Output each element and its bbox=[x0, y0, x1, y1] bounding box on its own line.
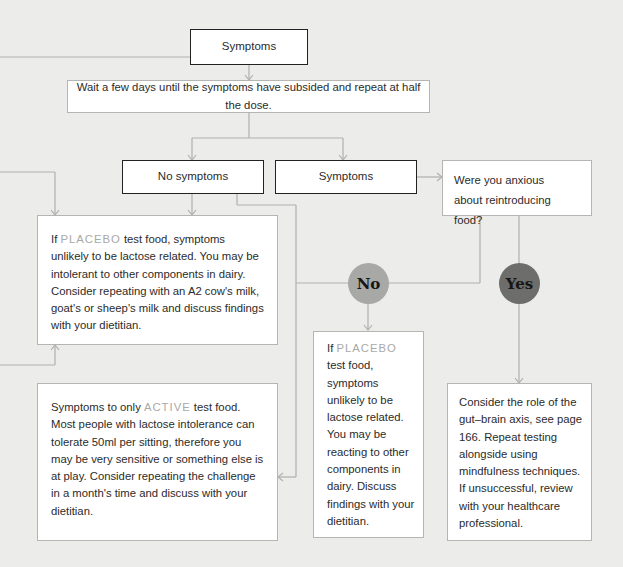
yes-label: Yes bbox=[506, 275, 533, 293]
wait-step-box: Wait a few days until the symptoms have … bbox=[67, 80, 430, 113]
placebo-left-prefix: If bbox=[51, 233, 60, 245]
no-circle: No bbox=[348, 263, 389, 304]
placebo-left-highlight: PLACEBO bbox=[60, 233, 120, 245]
gut-brain-box: Consider the role of the gut–brain axis,… bbox=[447, 383, 592, 541]
active-text: test food. Most people with lactose into… bbox=[51, 401, 263, 517]
no-symptoms-label: No symptoms bbox=[158, 168, 228, 185]
symptoms-branch-box: Symptoms bbox=[275, 160, 417, 194]
no-label: No bbox=[357, 275, 381, 293]
placebo-left-text: test food, symptoms unlikely to be lacto… bbox=[51, 233, 264, 331]
symptoms-top-label: Symptoms bbox=[222, 38, 276, 55]
anxious-question-box: Were you anxious about reintroducing foo… bbox=[442, 160, 592, 216]
active-highlight: ACTIVE bbox=[144, 401, 191, 413]
wait-step-label: Wait a few days until the symptoms have … bbox=[68, 79, 429, 114]
no-symptoms-box: No symptoms bbox=[122, 160, 264, 194]
yes-circle: Yes bbox=[499, 263, 540, 304]
placebo-middle-prefix: If bbox=[327, 342, 336, 354]
placebo-box-left: If PLACEBO test food, symptoms unlikely … bbox=[37, 215, 278, 345]
active-prefix: Symptoms to only bbox=[51, 401, 144, 413]
placebo-middle-highlight: PLACEBO bbox=[336, 342, 396, 354]
symptoms-branch-label: Symptoms bbox=[319, 168, 373, 185]
placebo-middle-text: test food, symptoms unlikely to be lacto… bbox=[327, 359, 414, 527]
gut-brain-text: Consider the role of the gut–brain axis,… bbox=[459, 396, 582, 529]
flowchart: Symptoms Wait a few days until the sympt… bbox=[0, 0, 623, 567]
placebo-box-middle: If PLACEBO test food, symptoms unlikely … bbox=[313, 331, 424, 538]
active-box: Symptoms to only ACTIVE test food. Most … bbox=[37, 383, 278, 541]
symptoms-top-box: Symptoms bbox=[190, 29, 308, 65]
question-line-1: Were you anxious bbox=[454, 170, 581, 190]
question-line-2: about reintroducing food? bbox=[454, 190, 581, 230]
